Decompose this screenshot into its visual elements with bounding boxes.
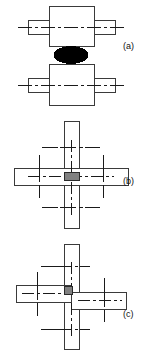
panel-a <box>18 7 125 106</box>
weld-nugget-b <box>65 173 80 181</box>
panel-b <box>15 122 129 229</box>
weld-nugget-c <box>65 287 73 295</box>
weld-nugget-a <box>54 47 88 64</box>
welding-joint-figure <box>0 0 161 358</box>
panel-label-c: (c) <box>123 309 134 319</box>
panel-label-b: (b) <box>123 176 134 186</box>
panel-c <box>17 245 127 350</box>
panel-label-a: (a) <box>123 41 134 51</box>
